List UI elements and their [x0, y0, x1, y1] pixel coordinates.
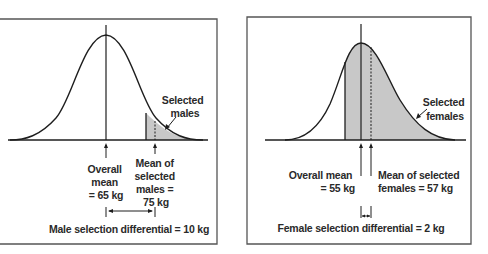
female-overall-mean-label: Overall mean = 55 kg [289, 169, 355, 194]
female-differential-label: Female selection differential = 2 kg [278, 222, 445, 234]
male-panel: Selected males Overall mean = 65 kg Mean… [0, 19, 217, 244]
female-diff-arrowhead-left [362, 215, 365, 218]
male-panel-border [0, 19, 217, 244]
female-diff-arrowhead-right [367, 215, 370, 218]
female-selected-arrow-head [369, 143, 373, 148]
female-selected-mean-label: Mean of selected females = 57 kg [378, 169, 462, 194]
female-selected-label: Selected females [423, 96, 467, 122]
male-overall-mean-label: Overall mean = 65 kg [88, 163, 125, 201]
male-diff-arrowhead-right [148, 209, 153, 213]
selection-differential-diagram: Selected males Overall mean = 65 kg Mean… [0, 0, 488, 254]
male-selected-arrow-head [153, 143, 157, 148]
male-differential-label: Male selection differential = 10 kg [49, 223, 209, 235]
male-diff-arrowhead-left [108, 209, 113, 213]
male-selected-label: Selected males [162, 94, 206, 119]
male-selected-mean-label: Mean of selected males = 75 kg [134, 157, 177, 208]
female-selected-pointer-head [416, 113, 421, 119]
male-mean-arrow-head [104, 143, 108, 148]
female-mean-arrow-head [359, 143, 363, 148]
female-panel: Selected females Overall mean = 55 kg Me… [247, 17, 471, 244]
